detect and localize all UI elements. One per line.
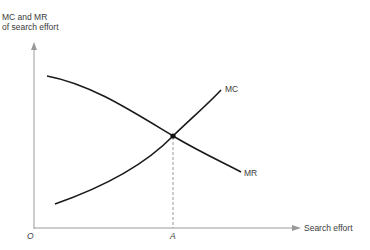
y-axis-label-line1: MC and MR	[2, 12, 47, 22]
mc-curve	[55, 90, 221, 204]
origin-label: O	[27, 231, 34, 241]
y-axis-arrow-icon	[31, 42, 37, 50]
x-axis-arrow-icon	[292, 225, 301, 231]
equilibrium-point	[170, 133, 175, 138]
mr-curve	[47, 76, 241, 172]
equilibrium-quantity-label: A	[170, 231, 176, 241]
mc-curve-label: MC	[225, 84, 238, 94]
mr-curve-label: MR	[244, 168, 257, 178]
x-axis-label: Search effort	[304, 223, 353, 233]
diagram-canvas	[0, 0, 370, 250]
y-axis-label-line2: of search effort	[2, 22, 59, 32]
